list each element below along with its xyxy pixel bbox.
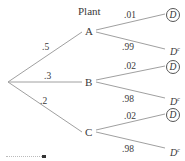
leaf-c-dc: Dc bbox=[170, 145, 180, 158]
leaf-b-dc: Dc bbox=[170, 94, 180, 107]
plant-header: Plant bbox=[78, 6, 101, 16]
prob-c-dc: .98 bbox=[122, 144, 134, 154]
node-a: A bbox=[85, 26, 93, 36]
caption-rule bbox=[6, 156, 42, 158]
node-b: B bbox=[85, 77, 92, 87]
prob-a-dc: .99 bbox=[122, 42, 134, 52]
prob-a: .5 bbox=[42, 42, 49, 52]
caption-marker bbox=[42, 155, 46, 158]
prob-c: .2 bbox=[40, 96, 47, 106]
leaf-c-d-circled: D bbox=[166, 108, 180, 122]
prob-a-d: .01 bbox=[124, 10, 136, 20]
leaf-a-dc: Dc bbox=[170, 44, 180, 57]
branch-root-c bbox=[8, 82, 82, 132]
leaf-b-d-circled: D bbox=[166, 60, 180, 74]
leaf-a-d-circled: D bbox=[166, 8, 180, 22]
prob-c-d: .02 bbox=[124, 111, 136, 121]
prob-b-dc: .98 bbox=[122, 94, 134, 104]
prob-b-d: .02 bbox=[124, 61, 136, 71]
node-c: C bbox=[85, 127, 92, 137]
prob-b: .3 bbox=[44, 71, 51, 81]
